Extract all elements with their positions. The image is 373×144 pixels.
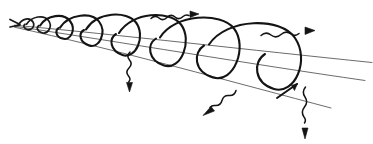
helix-diagram-svg: Expanding helical trajectory with emitte… [0,0,373,144]
figure-root: Expanding helical trajectory with emitte… [0,0,373,144]
figure-background [0,0,373,144]
